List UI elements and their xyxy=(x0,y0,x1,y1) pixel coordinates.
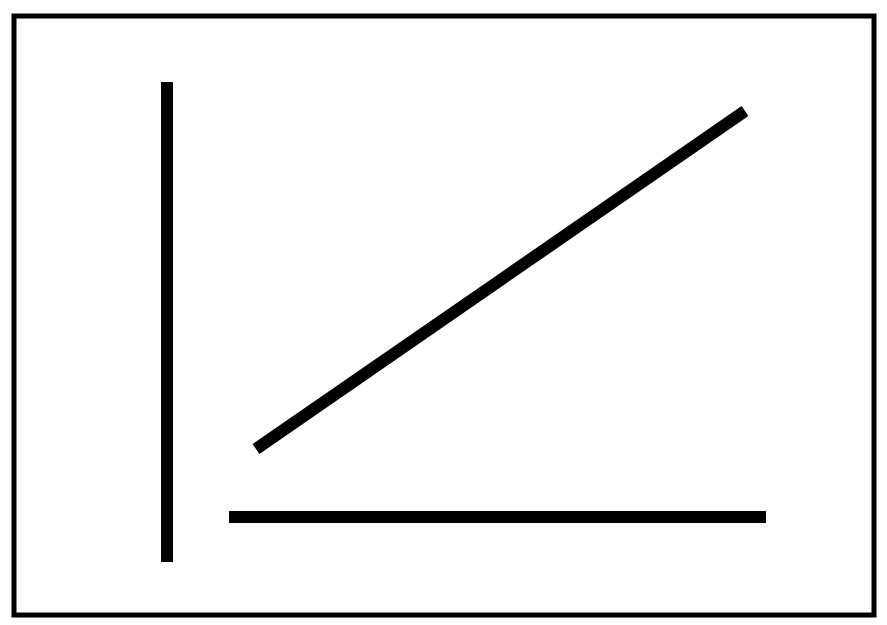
line-figure xyxy=(0,0,887,625)
figure-canvas xyxy=(0,0,887,625)
